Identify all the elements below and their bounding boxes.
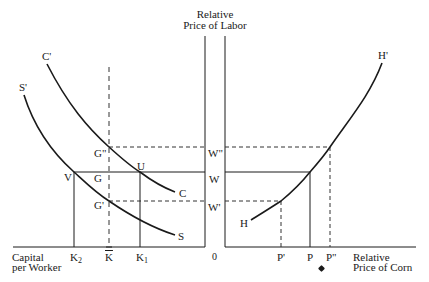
k2-subscript: 2 bbox=[78, 256, 82, 265]
g-double-prime-label: G" bbox=[94, 148, 106, 159]
vertical-axis-title-line2: Price of Labor bbox=[178, 20, 252, 31]
g-prime-label: G' bbox=[94, 200, 104, 211]
specific-factors-diagram bbox=[0, 0, 429, 282]
h-curve bbox=[251, 63, 382, 220]
p-double-prime-label: P" bbox=[326, 252, 337, 263]
s-label: S bbox=[178, 231, 184, 242]
h-label: H bbox=[240, 218, 248, 229]
u-label: U bbox=[137, 161, 145, 172]
p-prime-label: P' bbox=[277, 252, 285, 263]
w-prime-label: W' bbox=[208, 202, 220, 213]
g-label: G bbox=[94, 173, 102, 184]
p-label: P bbox=[307, 252, 313, 263]
left-horizontal-axis-title-line2: per Worker bbox=[12, 262, 61, 273]
w-label: W bbox=[209, 174, 219, 185]
h-prime-label: H' bbox=[378, 50, 388, 61]
right-horizontal-axis-title-line2: Price of Corn bbox=[353, 262, 412, 273]
k1-label: K1 bbox=[136, 252, 148, 266]
k2-label: K2 bbox=[70, 252, 82, 266]
c-prime-label: C' bbox=[42, 51, 51, 62]
origin-label: 0 bbox=[212, 251, 217, 262]
s-curve bbox=[24, 95, 175, 235]
kbar-label: K bbox=[105, 252, 113, 263]
c-label: C bbox=[179, 188, 186, 199]
s-prime-label: S' bbox=[19, 82, 27, 93]
v-label: V bbox=[64, 172, 72, 183]
k2-letter: K bbox=[70, 251, 78, 263]
k1-letter: K bbox=[136, 251, 144, 263]
w-double-prime-label: W" bbox=[208, 148, 223, 159]
k1-subscript: 1 bbox=[144, 256, 148, 265]
